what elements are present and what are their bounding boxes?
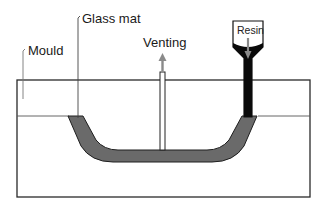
resin-label: Resin [237, 25, 264, 36]
mould-label: Mould [28, 44, 63, 57]
mould-leader-tick [23, 49, 25, 51]
venting-tube [160, 72, 165, 150]
venting-arrow-head [159, 53, 167, 61]
mould-diagram [0, 0, 324, 208]
glass-mat-leader-tick [78, 16, 80, 18]
glass-mat-label: Glass mat [82, 12, 141, 25]
venting-label: Venting [143, 36, 186, 49]
